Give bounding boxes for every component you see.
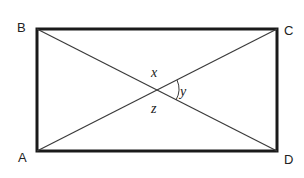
angle-arc-y (176, 80, 179, 100)
vertex-label-B: B (17, 20, 26, 35)
vertex-label-D: D (284, 152, 293, 167)
vertex-label-C: C (284, 23, 293, 38)
vertex-label-A: A (18, 150, 27, 165)
angle-label-x: x (150, 65, 158, 80)
angle-label-z: z (150, 101, 157, 116)
rectangle-diagram: B C A D x y z (0, 0, 304, 178)
angle-label-y: y (178, 84, 187, 99)
